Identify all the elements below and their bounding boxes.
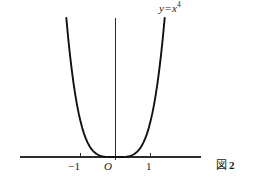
curve-equation-label: y=x4 xyxy=(159,3,181,14)
figure-container: y=x4 −1 O 1 図2 xyxy=(0,0,256,182)
figure-caption: 図2 xyxy=(216,160,235,171)
x-tick-label-neg1: −1 xyxy=(68,161,80,172)
figure-caption-mark: 図 xyxy=(216,159,227,172)
x-tick-label-pos1: 1 xyxy=(146,161,152,172)
curve-label-exponent: 4 xyxy=(177,0,181,9)
origin-label: O xyxy=(104,161,112,172)
curve-label-operator: = xyxy=(164,2,172,14)
figure-caption-number: 2 xyxy=(227,159,235,171)
function-plot-canvas xyxy=(0,0,256,182)
